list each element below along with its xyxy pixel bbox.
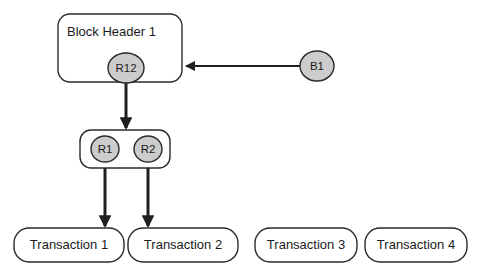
block-header-label: Block Header 1 bbox=[67, 24, 156, 39]
transaction-node-3[interactable]: Transaction 3 bbox=[255, 228, 357, 262]
hash-node-r12-label: R12 bbox=[115, 62, 136, 74]
hash-node-r1-label: R1 bbox=[98, 143, 113, 155]
transaction-node-2[interactable]: Transaction 2 bbox=[128, 228, 238, 262]
transaction-2-label: Transaction 2 bbox=[144, 237, 222, 252]
hash-node-b1[interactable]: B1 bbox=[300, 51, 334, 81]
diagram-canvas: Block Header 1 R12 B1 R1 R2 Transaction … bbox=[0, 0, 481, 271]
hash-node-r2-label: R2 bbox=[141, 143, 156, 155]
hash-node-r12[interactable]: R12 bbox=[108, 53, 144, 83]
transaction-4-label: Transaction 4 bbox=[377, 237, 455, 252]
transaction-3-label: Transaction 3 bbox=[267, 237, 345, 252]
hash-node-r1[interactable]: R1 bbox=[91, 136, 119, 162]
hash-node-r2[interactable]: R2 bbox=[134, 136, 162, 162]
hash-node-b1-label: B1 bbox=[310, 60, 324, 72]
transaction-node-4[interactable]: Transaction 4 bbox=[365, 228, 467, 262]
transaction-node-1[interactable]: Transaction 1 bbox=[14, 228, 124, 262]
diagram-svg: Block Header 1 R12 B1 R1 R2 Transaction … bbox=[0, 0, 481, 271]
transaction-1-label: Transaction 1 bbox=[30, 237, 108, 252]
